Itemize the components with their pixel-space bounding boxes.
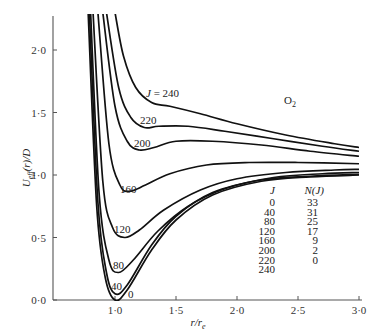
label-j40: 40 (111, 280, 123, 292)
rotational-state-table: JN(J)0334031802512017160920022200240 (259, 184, 325, 275)
x-tick-label: 1·5 (169, 304, 184, 316)
y-tick-label: 0·5 (31, 232, 46, 244)
x-tick-label: 3·0 (352, 304, 367, 316)
label-j240: J = 240 (146, 87, 180, 99)
x-axis-label: r/re (190, 316, 206, 331)
curve-labels: J = 240 220 200 160 120 80 40 0 (111, 87, 180, 300)
table-cell-nj: 0 (313, 254, 319, 266)
table-header-j: J (270, 184, 276, 196)
y-axis-label: Ueff(r)/D (20, 149, 35, 188)
curves (88, 13, 359, 301)
curve-j-40 (89, 13, 359, 295)
molecule-annotation: O2 (284, 94, 296, 109)
y-tick-label: 0·0 (31, 294, 46, 306)
y-tick-label: 1·5 (31, 107, 46, 119)
x-tick-label: 2·0 (230, 304, 245, 316)
label-j0: 0 (128, 288, 134, 300)
x-tick-label: 2·5 (291, 304, 306, 316)
curve-j-120 (93, 13, 359, 238)
curve-j-220 (106, 13, 359, 152)
x-tick-label: 1·0 (108, 304, 123, 316)
label-j200: 200 (134, 137, 151, 149)
curve-j-0 (88, 13, 359, 301)
label-j80: 80 (113, 259, 125, 271)
label-j120: 120 (114, 223, 131, 235)
label-j160: 160 (120, 183, 137, 195)
y-tick-label: 2·0 (31, 44, 46, 56)
label-j220: 220 (140, 114, 157, 126)
curve-j-160 (98, 13, 359, 192)
potential-curves-chart: 0·00·51·01·52·0 1·01·52·02·53·0 J = 240 … (0, 0, 380, 335)
curve-j-200 (103, 13, 359, 157)
x-ticks: 1·01·52·02·53·0 (108, 296, 367, 316)
table-cell-j: 240 (259, 263, 276, 275)
